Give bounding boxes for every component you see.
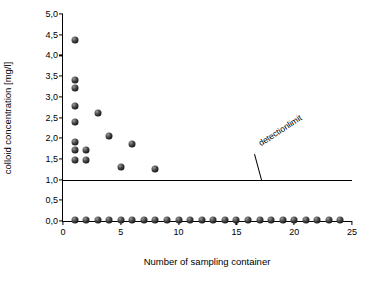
data-point (106, 133, 113, 140)
chart-figure: colloid concentration [mg/l] detectionli… (0, 0, 377, 283)
data-point (71, 102, 78, 109)
data-point (71, 216, 78, 223)
data-point (83, 156, 90, 163)
data-point (337, 216, 344, 223)
data-point (117, 216, 124, 223)
data-point (198, 216, 205, 223)
data-point (244, 216, 251, 223)
y-tick-mark (59, 138, 63, 139)
data-point (279, 216, 286, 223)
y-tick-mark (59, 34, 63, 35)
data-point (152, 216, 159, 223)
data-point (302, 216, 309, 223)
data-point (71, 156, 78, 163)
data-point (164, 216, 171, 223)
annotation-leader-line (254, 154, 262, 180)
detection-limit-annotation: detectionlimit (256, 113, 303, 148)
data-point (210, 216, 217, 223)
data-point (71, 139, 78, 146)
data-point (94, 109, 101, 116)
y-tick-mark (59, 96, 63, 97)
data-point (129, 140, 136, 147)
data-point (71, 77, 78, 84)
y-tick-mark (59, 158, 63, 159)
y-axis-label: colloid concentration [mg/l] (2, 14, 16, 222)
y-tick-mark (59, 179, 63, 180)
data-point (129, 216, 136, 223)
y-tick-mark (59, 13, 63, 14)
data-point (291, 216, 298, 223)
detection-limit-line (63, 180, 352, 181)
data-point (94, 216, 101, 223)
x-tick-mark (62, 221, 63, 225)
x-axis-label: Number of sampling container (62, 256, 352, 267)
y-tick-mark (59, 55, 63, 56)
y-tick-mark (59, 117, 63, 118)
data-point (71, 84, 78, 91)
data-point (106, 216, 113, 223)
plot-area: detectionlimit 0,00,51,01,52,02,53,03,54… (62, 14, 352, 222)
data-point (71, 146, 78, 153)
data-point (325, 216, 332, 223)
data-point (187, 216, 194, 223)
data-point (268, 216, 275, 223)
data-point (256, 216, 263, 223)
data-point (83, 216, 90, 223)
data-point (233, 216, 240, 223)
data-point (71, 36, 78, 43)
data-point (314, 216, 321, 223)
y-tick-mark (59, 200, 63, 201)
data-point (175, 216, 182, 223)
data-point (71, 119, 78, 126)
data-point (117, 164, 124, 171)
y-tick-mark (59, 76, 63, 77)
data-point (83, 146, 90, 153)
data-point (221, 216, 228, 223)
x-tick-mark (351, 221, 352, 225)
data-point (152, 165, 159, 172)
data-point (140, 216, 147, 223)
